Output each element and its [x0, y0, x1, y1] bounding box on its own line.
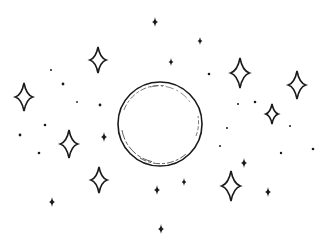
- outline-star-icon: [231, 58, 250, 88]
- sparkle-star-icon: [169, 58, 174, 66]
- sparkle-star-icon: [154, 185, 160, 195]
- star-dot: [50, 69, 52, 71]
- star-dot: [19, 134, 22, 137]
- star-dot: [280, 152, 282, 154]
- moon: [118, 82, 202, 166]
- star-dot: [208, 73, 211, 76]
- illustration: [0, 0, 321, 246]
- sparkle-star-icon: [152, 17, 158, 27]
- sparkle-star-icon: [101, 132, 107, 142]
- outline-star-icon: [222, 171, 241, 201]
- star-dot: [99, 104, 102, 107]
- outline-star-icon: [288, 71, 305, 99]
- sparkle-star-icon: [182, 178, 187, 186]
- sparkle-star-icon: [198, 37, 203, 45]
- star-dot: [38, 152, 41, 155]
- sparkle-star-icon: [49, 197, 55, 207]
- moon-outline: [118, 82, 202, 166]
- sparkle-star-icon: [158, 224, 164, 234]
- outline-star-icon: [90, 47, 106, 73]
- star-dot: [312, 148, 315, 151]
- star-dot: [226, 127, 228, 129]
- star-dot: [76, 101, 78, 103]
- outline-star-icon: [91, 167, 107, 193]
- sparkle-star-icon: [241, 158, 247, 168]
- sparkle-star-icon: [265, 187, 271, 197]
- outline-star-icon: [60, 130, 77, 158]
- star-dot: [254, 101, 257, 104]
- star-dot: [237, 103, 239, 105]
- outline-star-icon: [266, 104, 278, 124]
- star-dot: [44, 124, 47, 127]
- star-dot: [62, 83, 65, 86]
- moon-and-stars-illustration: [0, 0, 321, 246]
- star-dot: [219, 145, 221, 147]
- outline-star-icon: [15, 83, 32, 111]
- star-dot: [289, 125, 291, 127]
